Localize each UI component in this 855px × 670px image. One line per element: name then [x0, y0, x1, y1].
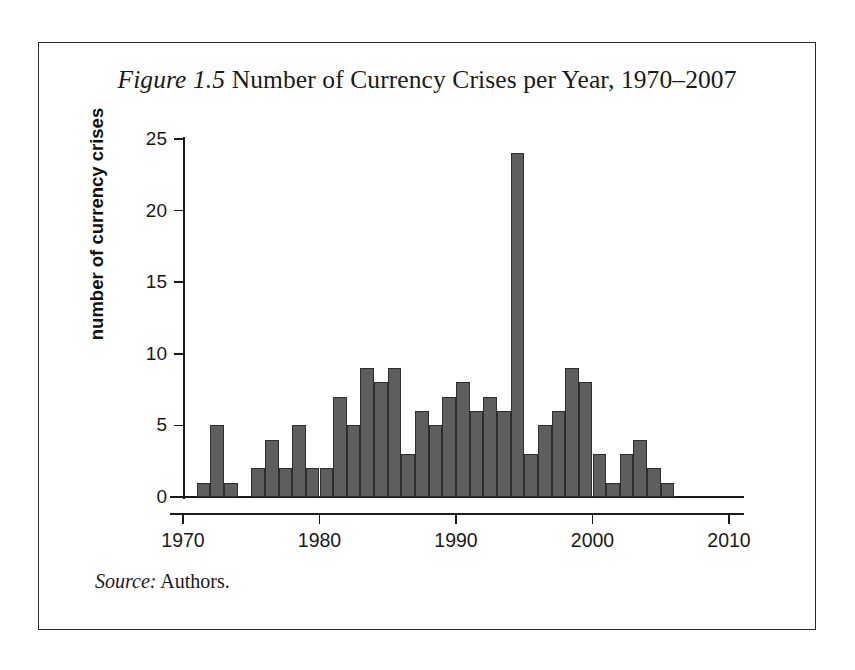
- figure-frame: Figure 1.5 Number of Currency Crises per…: [38, 42, 816, 630]
- bar-1985: [388, 368, 402, 497]
- bar-2005: [661, 483, 675, 497]
- y-tick-label-5: 5: [121, 414, 167, 436]
- bar-2004: [647, 468, 661, 497]
- bar-1981: [333, 397, 347, 497]
- x-axis-baseline: [170, 513, 744, 515]
- x-tick-label-1980: 1980: [280, 529, 360, 552]
- y-tick-label-10: 10: [121, 343, 167, 365]
- bar-1977: [279, 468, 293, 497]
- x-tick-label-1990: 1990: [416, 529, 496, 552]
- bar-1993: [497, 411, 511, 497]
- source-note: Source: Authors.: [95, 570, 230, 593]
- x-tick-1970: [182, 513, 184, 524]
- bar-1978: [292, 425, 306, 497]
- bar-1994: [511, 153, 525, 497]
- bar-1972: [210, 425, 224, 497]
- bar-1988: [429, 425, 443, 497]
- bar-1984: [374, 382, 388, 497]
- y-tick-label-15: 15: [121, 271, 167, 293]
- bar-1991: [470, 411, 484, 497]
- bar-1997: [552, 411, 566, 497]
- x-tick-2000: [592, 513, 594, 524]
- source-value: Authors.: [156, 570, 229, 592]
- bar-1980: [320, 468, 334, 497]
- chart-plot: number of currency crises 0510152025 197…: [39, 43, 817, 631]
- y-tick-15: [174, 281, 183, 283]
- bar-1995: [524, 454, 538, 497]
- bar-1987: [415, 411, 429, 497]
- y-tick-5: [174, 425, 183, 427]
- bars-container: [183, 139, 729, 497]
- bar-1989: [442, 397, 456, 497]
- bar-1979: [306, 468, 320, 497]
- bar-1973: [224, 483, 238, 497]
- y-tick-20: [174, 210, 183, 212]
- bar-1982: [347, 425, 361, 497]
- y-tick-10: [174, 353, 183, 355]
- bar-1996: [538, 425, 552, 497]
- bar-2000: [593, 454, 607, 497]
- bar-1971: [197, 483, 211, 497]
- x-tick-label-2000: 2000: [553, 529, 633, 552]
- bar-1986: [401, 454, 415, 497]
- bar-1992: [483, 397, 497, 497]
- bar-2001: [606, 483, 620, 497]
- y-tick-label-20: 20: [121, 200, 167, 222]
- bar-1975: [251, 468, 265, 497]
- bar-2003: [633, 440, 647, 497]
- y-tick-label-0: 0: [121, 486, 167, 508]
- bar-1983: [360, 368, 374, 497]
- bar-1998: [565, 368, 579, 497]
- x-tick-1990: [455, 513, 457, 524]
- bar-2002: [620, 454, 634, 497]
- x-tick-label-1970: 1970: [143, 529, 223, 552]
- y-tick-25: [174, 138, 183, 140]
- x-tick-2010: [728, 513, 730, 524]
- bar-1990: [456, 382, 470, 497]
- x-tick-label-2010: 2010: [689, 529, 769, 552]
- source-label: Source:: [95, 570, 156, 592]
- x-tick-1980: [319, 513, 321, 524]
- y-axis-title: number of currency crises: [86, 74, 108, 374]
- y-tick-label-25: 25: [121, 128, 167, 150]
- y-tick-0: [174, 496, 183, 498]
- bar-1999: [579, 382, 593, 497]
- bar-1976: [265, 440, 279, 497]
